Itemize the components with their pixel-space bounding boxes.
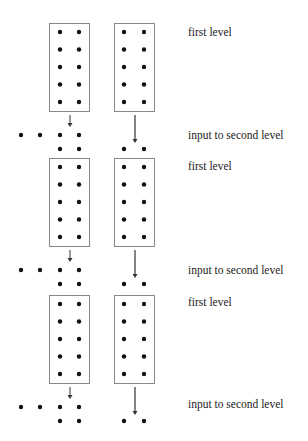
input-dot bbox=[142, 419, 146, 423]
grid-dot bbox=[77, 165, 81, 169]
grid-dot bbox=[122, 200, 126, 204]
grid-dot bbox=[142, 319, 146, 323]
input-dot bbox=[122, 282, 126, 286]
arrowhead-icon bbox=[133, 139, 138, 143]
label-first-level-1: first level bbox=[188, 26, 232, 38]
grid-dot bbox=[58, 235, 62, 239]
label-input-second-level-2: input to second level bbox=[188, 264, 284, 276]
arrowhead-icon bbox=[133, 274, 138, 278]
input-dot bbox=[122, 419, 126, 423]
grid-dot bbox=[142, 302, 146, 306]
grid-dot bbox=[77, 65, 81, 69]
input-dot bbox=[77, 282, 81, 286]
input-dot bbox=[58, 147, 62, 151]
first-level-box-2-right bbox=[115, 159, 155, 247]
grid-dot bbox=[142, 182, 146, 186]
grid-dot bbox=[142, 354, 146, 358]
input-dot bbox=[77, 405, 81, 409]
input-dot bbox=[19, 405, 23, 409]
grid-dot bbox=[58, 200, 62, 204]
input-dot bbox=[19, 268, 23, 272]
grid-dot bbox=[122, 235, 126, 239]
grid-dot bbox=[122, 337, 126, 341]
input-dot bbox=[77, 147, 81, 151]
grid-dot bbox=[58, 30, 62, 34]
input-dot bbox=[38, 133, 42, 137]
label-first-level-2: first level bbox=[188, 160, 232, 172]
grid-dot bbox=[122, 354, 126, 358]
grid-dot bbox=[58, 182, 62, 186]
input-dot bbox=[58, 133, 62, 137]
grid-dot bbox=[77, 354, 81, 358]
grid-dot bbox=[58, 302, 62, 306]
grid-dot bbox=[142, 47, 146, 51]
grid-dot bbox=[142, 165, 146, 169]
grid-dot bbox=[142, 30, 146, 34]
grid-dot bbox=[77, 217, 81, 221]
grid-dot bbox=[122, 165, 126, 169]
grid-dot bbox=[77, 337, 81, 341]
grid-dot bbox=[122, 47, 126, 51]
grid-dot bbox=[77, 319, 81, 323]
first-level-box-3-left bbox=[50, 296, 90, 384]
grid-dot bbox=[77, 30, 81, 34]
grid-dot bbox=[77, 82, 81, 86]
label-first-level-3: first level bbox=[188, 296, 232, 308]
grid-dot bbox=[58, 319, 62, 323]
input-dot bbox=[142, 282, 146, 286]
first-level-box-1-left bbox=[50, 24, 90, 112]
input-dot bbox=[58, 419, 62, 423]
grid-dot bbox=[122, 82, 126, 86]
grid-dot bbox=[122, 319, 126, 323]
input-dot bbox=[142, 147, 146, 151]
arrowhead-icon bbox=[68, 258, 73, 262]
input-dot bbox=[122, 147, 126, 151]
grid-dot bbox=[142, 100, 146, 104]
grid-dot bbox=[58, 82, 62, 86]
grid-dot bbox=[122, 182, 126, 186]
input-dot bbox=[58, 405, 62, 409]
grid-dot bbox=[122, 302, 126, 306]
first-level-box-1-right bbox=[115, 24, 155, 112]
label-input-second-level-3: input to second level bbox=[188, 398, 284, 410]
grid-dot bbox=[142, 235, 146, 239]
grid-dot bbox=[77, 302, 81, 306]
grid-dot bbox=[142, 65, 146, 69]
first-level-box-2-left bbox=[50, 159, 90, 247]
input-dot bbox=[77, 419, 81, 423]
input-dot bbox=[58, 282, 62, 286]
label-input-second-level-1: input to second level bbox=[188, 129, 284, 141]
grid-dot bbox=[77, 200, 81, 204]
grid-dot bbox=[122, 65, 126, 69]
grid-dot bbox=[122, 30, 126, 34]
grid-dot bbox=[142, 217, 146, 221]
input-dot bbox=[38, 405, 42, 409]
grid-dot bbox=[142, 337, 146, 341]
diagram-canvas bbox=[0, 0, 308, 441]
grid-dot bbox=[142, 200, 146, 204]
grid-dot bbox=[77, 47, 81, 51]
input-dot bbox=[38, 268, 42, 272]
input-dot bbox=[19, 133, 23, 137]
grid-dot bbox=[58, 65, 62, 69]
grid-dot bbox=[122, 372, 126, 376]
grid-dot bbox=[122, 217, 126, 221]
arrowhead-icon bbox=[68, 123, 73, 127]
input-dot bbox=[77, 268, 81, 272]
grid-dot bbox=[142, 82, 146, 86]
grid-dot bbox=[58, 354, 62, 358]
grid-dot bbox=[77, 372, 81, 376]
arrowhead-icon bbox=[68, 395, 73, 399]
grid-dot bbox=[77, 182, 81, 186]
grid-dot bbox=[58, 47, 62, 51]
grid-dot bbox=[142, 372, 146, 376]
grid-dot bbox=[58, 337, 62, 341]
grid-dot bbox=[77, 100, 81, 104]
first-level-box-3-right bbox=[115, 296, 155, 384]
arrowhead-icon bbox=[133, 411, 138, 415]
input-dot bbox=[77, 133, 81, 137]
input-dot bbox=[58, 268, 62, 272]
grid-dot bbox=[77, 235, 81, 239]
grid-dot bbox=[58, 217, 62, 221]
grid-dot bbox=[58, 372, 62, 376]
